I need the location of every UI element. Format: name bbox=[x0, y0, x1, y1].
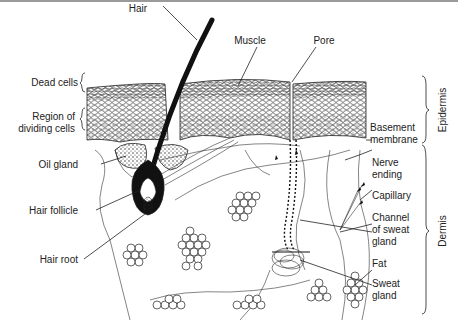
label-oil-gland: Oil gland bbox=[39, 159, 78, 170]
label-channel-3: gland bbox=[372, 236, 396, 247]
label-basement-2: membrane bbox=[370, 134, 418, 145]
right-braces bbox=[422, 76, 429, 314]
label-fat: Fat bbox=[372, 258, 387, 269]
label-muscle: Muscle bbox=[234, 35, 266, 46]
label-channel-2: of sweat bbox=[372, 224, 409, 235]
left-braces bbox=[80, 73, 85, 130]
epidermis-layer bbox=[87, 79, 366, 142]
label-basement-1: Basement bbox=[370, 122, 415, 133]
labels: Hair Muscle Pore Dead cells Region of di… bbox=[18, 3, 448, 301]
label-sweat-gland-2: gland bbox=[372, 290, 396, 301]
label-hair-follicle: Hair follicle bbox=[29, 205, 78, 216]
label-dividing-cells-2: dividing cells bbox=[18, 123, 75, 134]
label-epidermis: Epidermis bbox=[437, 88, 448, 132]
label-nerve-1: Nerve bbox=[372, 157, 399, 168]
label-capillary: Capillary bbox=[372, 190, 411, 201]
label-hair: Hair bbox=[129, 3, 148, 14]
label-pore: Pore bbox=[313, 35, 335, 46]
label-sweat-gland-1: Sweat bbox=[372, 278, 400, 289]
label-dead-cells: Dead cells bbox=[31, 77, 78, 88]
label-dermis: Dermis bbox=[437, 215, 448, 247]
label-nerve-2: ending bbox=[372, 169, 402, 180]
skin-diagram: Hair Muscle Pore Dead cells Region of di… bbox=[0, 0, 458, 334]
sweat-gland-coil bbox=[272, 248, 310, 276]
nerve-endings bbox=[275, 149, 365, 230]
label-dividing-cells-1: Region of bbox=[32, 111, 75, 122]
label-channel-1: Channel bbox=[372, 212, 409, 223]
label-hair-root: Hair root bbox=[40, 254, 79, 265]
sweat-channel bbox=[284, 140, 296, 250]
